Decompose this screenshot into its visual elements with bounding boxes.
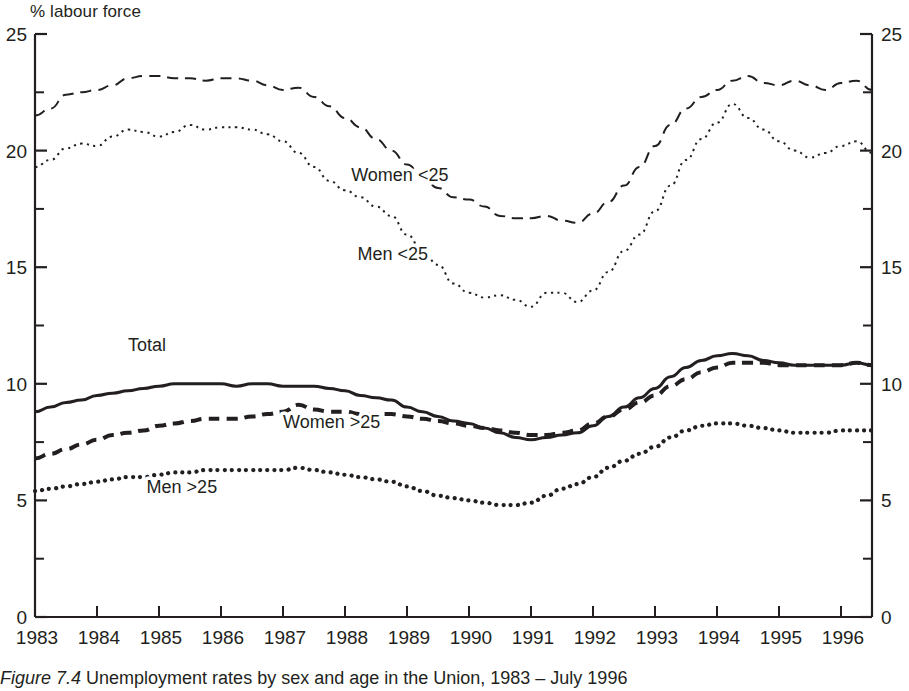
x-tick-label: 1985 [140,627,182,648]
x-tick-label: 1994 [698,627,741,648]
figure-caption-text: Unemployment rates by sex and age in the… [86,668,627,688]
figure-container: % labour force 2525202015151010550019831… [0,0,909,691]
x-tick-label: 1992 [574,627,616,648]
y-tick-label-left: 20 [6,141,27,162]
series-label-women-25: Women <25 [351,165,448,185]
figure-caption: Figure 7.4 Unemployment rates by sex and… [0,668,909,689]
chart-series-labels: Women <25Women <25Men <25Men <25TotalTot… [128,165,448,497]
series-line-men-25 [35,104,872,307]
x-tick-label: 1984 [78,627,121,648]
series-label-total: Total [128,335,166,355]
x-tick-label: 1983 [16,627,58,648]
series-label-men-25: Men >25 [147,477,218,497]
y-tick-label-left: 10 [6,374,27,395]
y-tick-label-right: 0 [881,607,892,628]
chart-series-lines [35,76,872,505]
y-tick-label-left: 0 [16,607,27,628]
x-tick-label: 1987 [264,627,306,648]
x-tick-label: 1993 [636,627,678,648]
x-tick-label: 1996 [822,627,864,648]
series-label-women-25: Women >25 [283,412,380,432]
x-tick-label: 1988 [326,627,368,648]
x-tick-label: 1989 [388,627,430,648]
y-tick-label-left: 15 [6,257,27,278]
figure-number: Figure 7.4 [0,668,81,688]
y-tick-label-right: 10 [881,374,902,395]
x-tick-label: 1991 [512,627,554,648]
x-tick-label: 1990 [450,627,492,648]
y-tick-label-left: 25 [6,24,27,45]
x-tick-label: 1995 [760,627,802,648]
y-tick-label-right: 20 [881,141,902,162]
y-tick-label-right: 15 [881,257,902,278]
y-tick-label-right: 25 [881,24,902,45]
series-line-women-25 [35,363,872,459]
x-tick-label: 1986 [202,627,244,648]
unemployment-line-chart: 2525202015151010550019831984198519861987… [0,0,909,665]
y-tick-label-left: 5 [16,490,27,511]
series-line-women-25 [35,76,872,223]
series-label-men-25: Men <25 [357,244,428,264]
chart-axes [35,34,872,617]
y-tick-label-right: 5 [881,490,892,511]
